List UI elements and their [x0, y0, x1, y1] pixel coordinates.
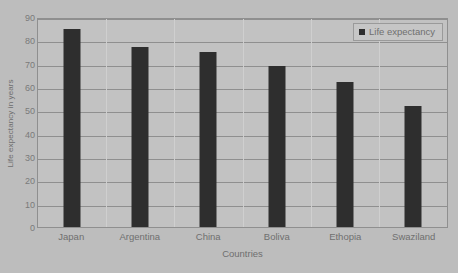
bar-slot	[174, 19, 242, 227]
bar-slot	[243, 19, 311, 227]
y-axis-tick-label: 40	[25, 130, 35, 139]
y-axis-tick-labels: 0102030405060708090	[18, 18, 35, 228]
bar-boliva[interactable]	[268, 66, 285, 227]
y-axis-tick-label: 50	[25, 107, 35, 116]
bar-china[interactable]	[200, 52, 217, 227]
y-axis-tick-label: 60	[25, 84, 35, 93]
bar-slot	[379, 19, 447, 227]
bar-argentina[interactable]	[132, 47, 149, 227]
y-axis-title: Life expectancy in years	[2, 18, 18, 228]
x-axis-tick-label: Japan	[37, 231, 106, 242]
y-axis-tick-label: 90	[25, 14, 35, 23]
x-axis-tick-label: China	[174, 231, 243, 242]
y-axis-tick-label: 20	[25, 177, 35, 186]
x-axis-tick-label: Boliva	[243, 231, 312, 242]
y-axis-tick-label: 30	[25, 154, 35, 163]
y-axis-tick-label: 70	[25, 60, 35, 69]
bar-slot	[311, 19, 379, 227]
x-axis-tick-labels: JapanArgentinaChinaBolivaEthopiaSwazilan…	[37, 231, 448, 242]
x-axis-title: Countries	[37, 248, 448, 259]
y-axis-tick-label: 10	[25, 200, 35, 209]
y-axis-tick-label: 80	[25, 37, 35, 46]
bar-slot	[106, 19, 174, 227]
bar-slot	[38, 19, 106, 227]
bar-japan[interactable]	[64, 29, 81, 227]
y-axis-title-text: Life expectancy in years	[6, 79, 15, 167]
bars-layer	[38, 19, 447, 227]
x-axis-tick-label: Ethopia	[311, 231, 380, 242]
bar-ethopia[interactable]	[336, 82, 353, 227]
y-axis-tick-label: 0	[30, 224, 35, 233]
bar-swaziland[interactable]	[404, 106, 421, 227]
legend-swatch-life-expectancy	[359, 29, 365, 35]
legend: Life expectancy	[353, 23, 443, 41]
bar-chart-figure: Life expectancy in years 010203040506070…	[0, 0, 458, 273]
legend-label-life-expectancy: Life expectancy	[369, 26, 435, 37]
x-axis-tick-label: Argentina	[106, 231, 175, 242]
plot-area: Life expectancy	[37, 18, 448, 228]
x-axis-tick-label: Swaziland	[380, 231, 449, 242]
